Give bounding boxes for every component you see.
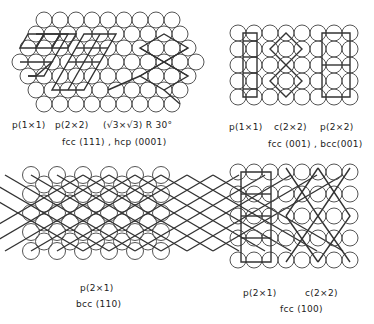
atom-circle [68,12,84,28]
atom-circle [132,12,148,28]
label-fcc100: fcc (100) [280,304,323,314]
atom-circle [326,208,342,224]
atom-circle [294,252,310,268]
atom-circle [294,164,310,180]
label-sqrt3-r30: (√3×√3) R 30° [103,120,172,130]
label-p2x2-hex: p(2×2) [55,120,89,130]
atom-circle [127,205,144,222]
atom-circle [68,96,84,112]
atom-circle [278,186,294,202]
atom-circle [294,208,310,224]
atom-circle [124,82,140,98]
atom-circle [326,41,342,57]
atom-circle [262,89,278,105]
atom-circle [84,96,100,112]
unit-cell-outline [270,65,302,97]
label-p1x1-square: p(1×1) [229,122,263,132]
atom-circle [148,12,164,28]
atom-circle [49,205,66,222]
atom-circle [28,82,44,98]
atom-circle [100,68,116,84]
atom-circle [100,12,116,28]
atom-circle [294,89,310,105]
atom-circle [246,57,262,73]
atom-circle [116,68,132,84]
atom-circle [116,12,132,28]
label-p1x1-hex: p(1×1) [12,120,46,130]
atom-circle [230,252,246,268]
atom-circle [310,230,326,246]
atom-circle [326,252,342,268]
atom-circle [124,26,140,42]
unit-cell-outline [318,168,350,262]
atom-circle [75,205,92,222]
atom-circle [310,73,326,89]
atom-circle [92,82,108,98]
atom-circle [52,12,68,28]
atom-circle [124,54,140,70]
atom-circle [132,96,148,112]
atom-circle [326,164,342,180]
atom-circle [246,41,262,57]
atom-circle [84,12,100,28]
atom-circle [246,73,262,89]
bcc110-centered-lattice [0,167,343,260]
atom-circle [52,96,68,112]
atom-circle [153,205,170,222]
atom-circle [164,96,180,112]
atom-circle [262,252,278,268]
atom-circle [108,54,124,70]
atom-circle [310,186,326,202]
atom-circle [326,73,342,89]
unit-cell-outline [270,33,302,65]
surface-structures-diagram [0,0,374,324]
atom-circle [278,73,294,89]
label-c2x2-square: c(2×2) [274,122,307,132]
label-p2x2-square: p(2×2) [320,122,354,132]
label-p2x1-bcc: p(2×1) [80,283,114,293]
label-p2x1-fcc100: p(2×1) [243,288,277,298]
atom-circle [342,186,358,202]
atom-circle [278,41,294,57]
atom-circle [188,54,204,70]
atom-circle [23,205,40,222]
fcc100-lattice [230,164,358,268]
atom-circle [246,252,262,268]
atom-circle [262,25,278,41]
atom-circle [116,96,132,112]
atom-circle [116,40,132,56]
atom-circle [36,96,52,112]
atom-circle [148,96,164,112]
atom-circle [294,57,310,73]
atom-circle [262,57,278,73]
label-fcc001-bcc001: fcc (001) , bcc(001) [268,139,363,149]
atom-circle [36,12,52,28]
unit-cell-outline [286,168,318,262]
atom-circle [100,96,116,112]
atom-circle [310,41,326,57]
atom-circle [164,12,180,28]
atom-circle [342,230,358,246]
label-c2x2-fcc100: c(2×2) [305,288,338,298]
fcc001-square-lattice [230,25,358,105]
fcc111-hex-lattice [12,12,204,112]
label-fcc111-hcp0001: fcc (111) , hcp (0001) [62,137,166,147]
atom-circle [101,205,118,222]
atom-circle [294,25,310,41]
label-bcc110: bcc (110) [76,299,121,309]
